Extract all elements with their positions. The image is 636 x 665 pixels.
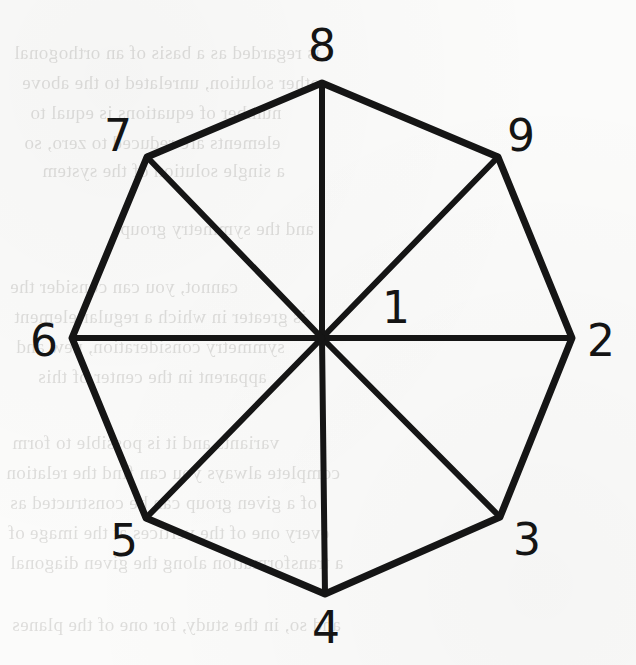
vertex-label-9: 9 (507, 114, 535, 158)
vertex-label-7: 7 (104, 114, 132, 158)
vertex-label-3: 3 (513, 518, 541, 562)
spoke-to-vertex-9 (322, 157, 498, 338)
spoke-to-vertex-7 (147, 157, 322, 338)
octagon-diagram (0, 0, 636, 665)
interior-label-1: 1 (382, 286, 410, 330)
vertex-label-4: 4 (312, 606, 340, 650)
spoke-to-vertex-3 (322, 338, 500, 517)
vertex-label-5: 5 (110, 519, 138, 563)
vertex-label-8: 8 (308, 24, 336, 68)
spoke-to-vertex-5 (146, 338, 322, 518)
vertex-label-2: 2 (587, 319, 615, 363)
vertex-label-6: 6 (30, 319, 58, 363)
spoke-to-vertex-4 (322, 338, 325, 594)
octagon-figure: is regarded as a basis of an orthogonalo… (0, 0, 636, 665)
